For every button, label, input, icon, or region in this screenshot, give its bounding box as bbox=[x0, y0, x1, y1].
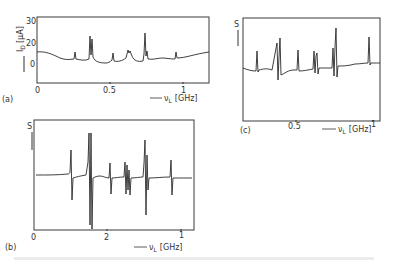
panel-a-xtick-0.5: 0.5 bbox=[103, 86, 116, 95]
panel-a-trace bbox=[37, 33, 209, 63]
panel-b-label: (b) bbox=[5, 243, 16, 252]
panel-a: 30 20 0 ID[μA] 0 0.5 1 (a) νL[GHz] bbox=[2, 17, 209, 104]
panel-a-ytick-0: 0 bbox=[30, 60, 35, 69]
panel-a-ytick-20: 20 bbox=[26, 39, 36, 48]
figure-caption-cutoff bbox=[14, 257, 374, 260]
panel-a-xtick-0: 0 bbox=[35, 86, 40, 95]
panel-c-xtick-0.5: 0.5 bbox=[288, 122, 301, 131]
panel-b-xlabel: νL[GHz] bbox=[149, 243, 182, 253]
panel-a-frame bbox=[37, 17, 209, 83]
panel-b-trace bbox=[36, 133, 192, 229]
panel-c-ylabel: S bbox=[234, 20, 239, 29]
panel-a-ylabel: ID[μA] bbox=[16, 26, 26, 52]
svg-text:ID[μA]: ID[μA] bbox=[16, 26, 26, 52]
panel-a-label: (a) bbox=[2, 95, 13, 104]
figure-canvas: 30 20 0 ID[μA] 0 0.5 1 (a) νL[GHz] S 0.5… bbox=[0, 0, 394, 265]
panel-b-xtick-2: 2 bbox=[104, 233, 109, 242]
panel-b-ylabel: S bbox=[27, 122, 32, 131]
panel-c: S 0.5 1 (c) νL[GHz] bbox=[234, 18, 380, 135]
panel-b: S 0 2 1 (b) νL[GHz] bbox=[5, 120, 194, 253]
panel-b-xtick-0: 0 bbox=[31, 233, 36, 242]
panel-c-label: (c) bbox=[240, 126, 251, 135]
panel-a-ytick-30: 30 bbox=[26, 17, 36, 26]
panel-a-xlabel: νL[GHz] bbox=[164, 94, 197, 104]
panel-c-trace bbox=[243, 28, 380, 80]
panel-c-xlabel: νL[GHz] bbox=[338, 125, 371, 135]
panel-c-xtick-1: 1 bbox=[371, 120, 376, 129]
panel-b-xtick-1: 1 bbox=[179, 231, 184, 240]
